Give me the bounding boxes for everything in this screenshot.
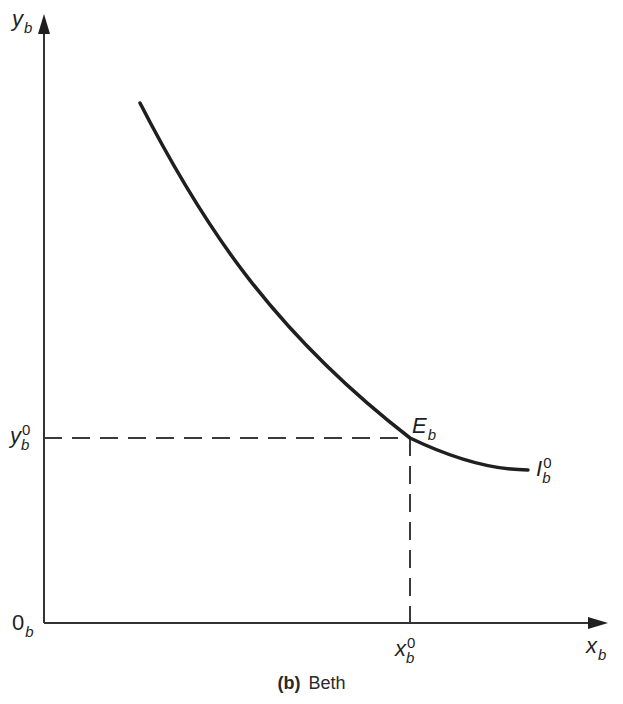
x0-tick-label: x0b (395, 638, 418, 664)
y-axis-label-sub: b (24, 19, 32, 36)
caption-name: Beth (308, 673, 345, 693)
caption-tag: (b) (277, 673, 300, 693)
y0-tick-label: y0b (10, 425, 33, 451)
curve-label: I0b (536, 458, 554, 484)
y-axis-label-main: y (12, 6, 23, 31)
point-label-sub: b (428, 426, 436, 443)
figure-caption: (b)Beth (0, 673, 623, 694)
x0-tick-main: x (395, 636, 406, 661)
x0-tick-supsub: 0b (406, 638, 418, 664)
x0-tick-sub: b (406, 650, 414, 665)
curve-label-sup: 0 (543, 455, 551, 470)
origin-label-sub: b (25, 623, 33, 640)
x0-tick-sup: 0 (407, 635, 415, 650)
curve-label-supsub: 0b (542, 458, 554, 484)
origin-label: 0b (12, 612, 34, 634)
curve-label-sub: b (542, 470, 550, 485)
y0-tick-supsub: 0b (21, 425, 33, 451)
indifference-curve-diagram (0, 0, 623, 704)
y0-tick-sup: 0 (22, 422, 30, 437)
indifference-curve (140, 103, 528, 470)
point-label-main: E (412, 413, 427, 438)
y-axis-label: yb (12, 8, 32, 30)
x-axis-arrow-icon (588, 617, 608, 629)
y0-tick-main: y (10, 423, 21, 448)
x-axis-label: xb (586, 635, 606, 657)
x-axis-label-sub: b (598, 646, 606, 663)
x-axis-label-main: x (586, 633, 597, 658)
origin-label-main: 0 (12, 610, 24, 635)
equilibrium-point-label: Eb (412, 415, 436, 437)
y-axis-arrow-icon (38, 14, 50, 34)
y0-tick-sub: b (21, 437, 29, 452)
